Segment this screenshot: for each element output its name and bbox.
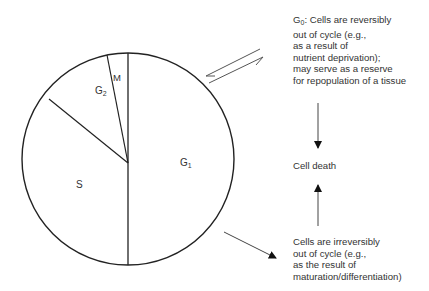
cell-cycle-pie [22, 53, 234, 265]
phase-label-s: S [76, 179, 83, 190]
arrow-to-irreversible [224, 232, 276, 258]
reversible-exchange-arrows [206, 49, 263, 83]
cell-death-label: Cell death [293, 160, 336, 171]
phase-label-m: M [113, 72, 121, 83]
phase-label-g1: G1 [180, 157, 192, 169]
irreversible-note: Cells are irreversibly out of cycle (e.g… [293, 236, 402, 282]
g0-note: G0: Cells are reversibly out of cycle (e… [293, 14, 406, 87]
phase-label-g2: G2 [95, 85, 107, 97]
